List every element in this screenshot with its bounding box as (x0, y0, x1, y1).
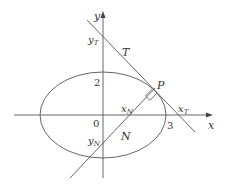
y-axis-label: y (93, 10, 101, 23)
y-axis-arrow-icon (101, 11, 106, 18)
tangent-x-intercept-label: xT (178, 103, 190, 116)
origin-label: 0 (93, 118, 99, 129)
x-axis-arrow-icon (206, 113, 213, 118)
point-p-label: P (156, 79, 165, 92)
normal-y-intercept-label: yN (87, 135, 101, 148)
normal-line (70, 88, 155, 178)
tangent-label: T (122, 46, 131, 59)
ellipse-tangent-normal-diagram: y x 0 2 3 yT T P xN xT yN N (0, 0, 225, 188)
tangent-y-intercept-label: yT (87, 34, 100, 47)
normal-x-intercept-label: xN (121, 103, 134, 116)
x-value-label: 3 (167, 120, 173, 131)
y-value-label: 2 (94, 77, 100, 88)
x-axis-label: x (208, 119, 215, 132)
normal-label: N (120, 130, 131, 143)
